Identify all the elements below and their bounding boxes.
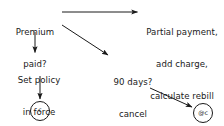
premium-paid-line-1: Premium <box>8 27 62 38</box>
arrow-premium-to-ninety-days <box>62 25 108 55</box>
set-policy-line-1: Set policy <box>6 75 72 86</box>
terminator-at-c-label: @c <box>193 110 213 116</box>
partial-payment-line-1: Partial payment, <box>142 27 222 38</box>
terminator-c-label: c <box>30 107 50 113</box>
ninety-days-line-1: 90 days? <box>110 77 156 88</box>
ninety-days-cancel-action: 90 days? cancel policy <box>110 56 156 126</box>
diagram-canvas: Premium paid? Partial payment, add charg… <box>0 0 224 126</box>
set-policy-in-force-action: Set policy in force <box>6 54 72 126</box>
ninety-days-line-2: cancel <box>110 109 156 120</box>
